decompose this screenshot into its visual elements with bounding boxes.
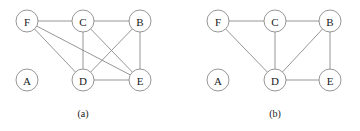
panel-caption-panel-a: (a) [77, 108, 88, 120]
node-group: FCBADE [207, 10, 341, 91]
graph-node-label-E: E [327, 75, 334, 87]
graph-node-label-F: F [24, 16, 30, 28]
graph-node-label-B: B [326, 16, 333, 28]
graph-node-label-A: A [23, 75, 31, 87]
graph-node-label-D: D [271, 75, 279, 87]
panel-caption-panel-b: (b) [269, 108, 281, 120]
graph-figure: FCBADE(a)FCBADE(b) [0, 0, 360, 131]
graph-edge-F-E [37, 26, 131, 75]
graph-node-label-B: B [136, 16, 143, 28]
graph-canvas: FCBADE(a)FCBADE(b) [0, 0, 360, 131]
graph-node-label-D: D [79, 75, 87, 87]
graph-node-label-E: E [137, 75, 144, 87]
graph-edge-B-D [283, 29, 323, 72]
graph-node-label-C: C [79, 16, 86, 28]
panel-a: FCBADE(a) [16, 10, 151, 120]
panel-b: FCBADE(b) [207, 10, 341, 120]
graph-node-label-F: F [215, 16, 221, 28]
graph-node-label-C: C [271, 16, 278, 28]
graph-edge-F-D [226, 29, 268, 72]
graph-node-label-A: A [214, 75, 222, 87]
